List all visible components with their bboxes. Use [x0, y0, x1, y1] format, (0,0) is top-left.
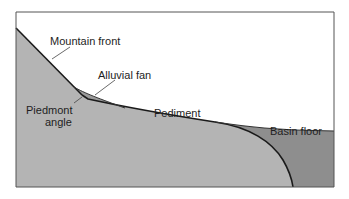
label-piedmont-angle-line1: Piedmont [26, 104, 72, 116]
alluvial-fan-leader [95, 80, 115, 95]
label-alluvial-fan: Alluvial fan [98, 69, 151, 81]
label-basin-floor: Basin floor [270, 125, 322, 137]
landform-cross-section [0, 0, 349, 199]
mountain-front-leader [52, 47, 70, 59]
label-pediment: Pediment [154, 107, 200, 119]
label-mountain-front: Mountain front [50, 35, 120, 47]
label-piedmont-angle-line2: angle [45, 116, 72, 128]
